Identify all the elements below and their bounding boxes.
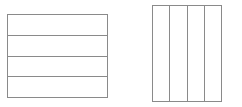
horizontal-strip-2	[8, 36, 107, 57]
figure-canvas	[0, 0, 242, 107]
vertical-strip-2	[170, 6, 187, 101]
right-rectangle	[152, 5, 222, 102]
left-rectangle	[7, 14, 108, 98]
vertical-strip-4	[205, 6, 221, 101]
vertical-strip-3	[188, 6, 205, 101]
horizontal-strip-3	[8, 57, 107, 78]
horizontal-strip-4	[8, 77, 107, 97]
vertical-strip-1	[153, 6, 170, 101]
horizontal-strip-1	[8, 15, 107, 36]
